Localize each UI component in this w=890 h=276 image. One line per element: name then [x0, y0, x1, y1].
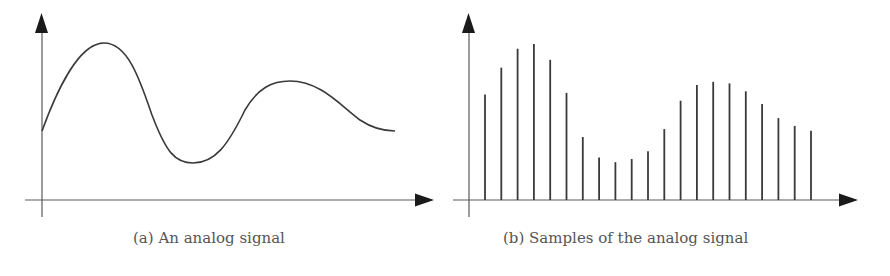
x-axis-arrow-icon [415, 194, 434, 207]
y-axis-arrow-icon [35, 13, 48, 33]
caption-b: (b) Samples of the analog signal [503, 229, 748, 247]
analog-signal-curve [42, 43, 395, 163]
panel-b-samples [453, 13, 858, 217]
y-axis-arrow-icon [462, 13, 475, 33]
x-axis-arrow-icon [839, 194, 858, 207]
caption-a: (a) An analog signal [133, 229, 285, 247]
panel-a-analog-signal [25, 13, 434, 217]
sample-stems [485, 44, 811, 200]
